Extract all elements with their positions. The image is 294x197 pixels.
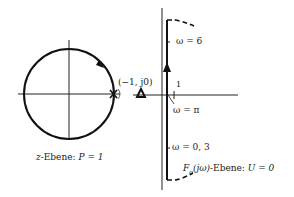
locus-top-dashed [167,20,194,26]
omega-03-label: ω = 0, 3 [172,143,210,152]
omega-pi-label: ω = π [173,106,200,115]
fo-plane-caption: Fo(jω)-Ebene: U = 0 [183,164,274,175]
locus-direction-arrow-icon [163,62,171,72]
omega-6-label: ω = 6 [176,37,202,46]
critical-point-icon [137,89,145,97]
tick-1-label: 1 [176,81,181,89]
critical-point-label: (−1, j0) [118,78,153,87]
z-plane-caption: z-Ebene: P = 1 [36,153,104,162]
omega-pi-pointer [168,95,174,104]
z-plane [18,40,120,139]
